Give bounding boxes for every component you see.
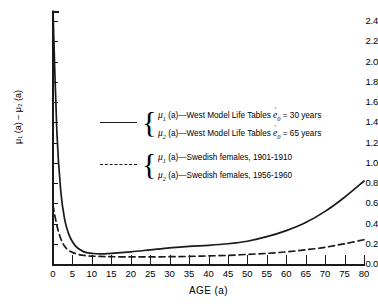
legend-entry: μ2 (a)—Swedish females, 1956-1960	[158, 168, 292, 186]
legend-entry: μ2 (a)—West Model Life Tables ˚e0 = 65 y…	[158, 126, 321, 144]
legend-entry: μ1 (a)—West Model Life Tables ˚e0 = 30 y…	[158, 108, 321, 126]
legend-line-sample-dashed	[100, 164, 137, 165]
legend-brace: {	[142, 107, 156, 137]
curve-swedish-females	[53, 205, 364, 257]
legend-text-block: μ1 (a)—Swedish females, 1901-1910μ2 (a)—…	[158, 150, 292, 187]
legend-line-sample-solid	[100, 122, 137, 123]
legend-text-block: μ1 (a)—West Model Life Tables ˚e0 = 30 y…	[158, 108, 321, 145]
legend-brace: {	[142, 149, 156, 179]
legend-entry: μ1 (a)—Swedish females, 1901-1910	[158, 150, 292, 168]
mortality-difference-chart: 0.00.20.40.60.81.01.21.41.61.82.02.22.4 …	[0, 0, 378, 308]
